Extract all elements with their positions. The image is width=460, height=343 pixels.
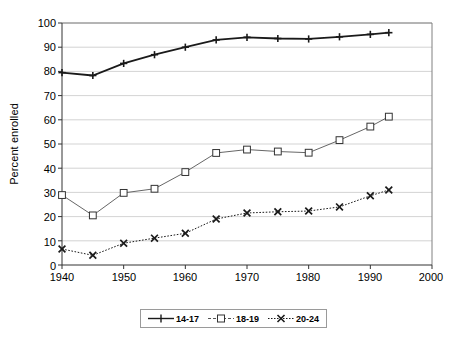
plot-area <box>0 0 460 343</box>
legend-entry-20-24: 20-24 <box>268 313 319 324</box>
gridlines <box>62 23 432 241</box>
series-20-24 <box>59 187 393 259</box>
legend-label-18-19: 18-19 <box>236 314 259 324</box>
chart-container: Percent enrolled 100 90 80 70 60 50 40 3… <box>0 0 460 343</box>
legend-label-14-17: 14-17 <box>176 314 199 324</box>
legend-label-20-24: 20-24 <box>296 314 319 324</box>
legend-marker-x-icon <box>268 313 294 324</box>
legend-entry-14-17: 14-17 <box>148 313 199 324</box>
legend-entry-18-19: 18-19 <box>208 313 259 324</box>
legend: 14-17 18-19 20-24 <box>140 309 327 328</box>
legend-marker-square-icon <box>208 313 234 324</box>
series-18-19 <box>59 113 393 219</box>
legend-marker-plus-icon <box>148 313 174 324</box>
